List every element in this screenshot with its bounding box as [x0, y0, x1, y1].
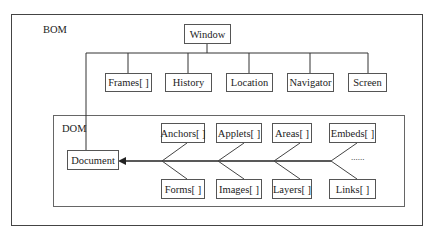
node-embeds: Embeds[ ]	[329, 123, 376, 143]
node-forms: Forms[ ]	[161, 179, 205, 199]
node-areas: Areas[ ]	[272, 123, 312, 143]
node-navigator: Navigator	[287, 73, 334, 92]
node-window: Window	[184, 24, 231, 44]
node-links: Links[ ]	[329, 179, 376, 199]
node-location: Location	[226, 73, 273, 92]
node-images: Images[ ]	[216, 179, 262, 199]
node-anchors: Anchors[ ]	[161, 123, 205, 143]
node-frames: Frames[ ]	[105, 73, 152, 92]
node-screen: Screen	[348, 73, 387, 92]
node-history: History	[165, 73, 212, 92]
node-document: Document	[67, 150, 119, 170]
ellipsis: ......	[351, 152, 365, 162]
node-applets: Applets[ ]	[216, 123, 262, 143]
arrowhead-icon	[118, 157, 126, 165]
node-layers: Layers[ ]	[272, 179, 312, 199]
